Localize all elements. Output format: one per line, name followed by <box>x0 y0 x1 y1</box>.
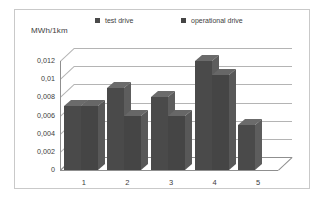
y-axis-tick-label: 0,008 <box>21 93 55 101</box>
gridline-depth-edge <box>60 66 75 80</box>
y-axis-tick-label: 0,004 <box>21 130 55 138</box>
bar-side-face <box>141 110 148 170</box>
x-axis-tick-label: 5 <box>243 178 273 187</box>
gridline <box>74 66 292 67</box>
gridline-depth-edge <box>60 84 75 98</box>
chart-frame: test drive operational drive MWh/1km 00,… <box>14 9 310 189</box>
bar-front-face <box>151 97 168 170</box>
bar-front-face <box>238 125 255 170</box>
y-axis-tick-label: 0,012 <box>21 57 55 65</box>
bar-front-face <box>107 88 124 170</box>
bar-front-face <box>212 75 229 170</box>
bar-front-face <box>81 106 98 170</box>
bar-operational-drive-1 <box>81 100 105 170</box>
y-axis-tick-label: 0 <box>21 166 55 174</box>
gridline-depth-edge <box>60 48 75 62</box>
bar-operational-drive-4 <box>212 69 236 170</box>
x-axis-tick-label: 4 <box>200 178 230 187</box>
y-axis-tick-label: 0,002 <box>21 148 55 156</box>
bar-front-face <box>168 116 185 170</box>
y-axis-tick-label: 0,01 <box>21 75 55 83</box>
x-axis-line <box>60 170 278 171</box>
x-axis-tick-label: 3 <box>156 178 186 187</box>
bar-side-face <box>229 69 236 170</box>
bar-side-face <box>255 119 262 170</box>
bar-operational-drive-3 <box>168 110 192 170</box>
x-axis-tick-label: 2 <box>112 178 142 187</box>
bar-operational-drive-2 <box>124 110 148 170</box>
y-axis-tick-label: 0,006 <box>21 112 55 120</box>
bar-front-face <box>124 116 141 170</box>
bar-side-face <box>185 110 192 170</box>
y-axis-line <box>60 61 61 170</box>
bar-test-drive-5 <box>238 119 262 170</box>
gridline <box>74 48 292 49</box>
plot-area: 00,0020,0040,0060,0080,010,01212345 <box>15 10 311 190</box>
bar-front-face <box>64 106 81 170</box>
bar-side-face <box>98 100 105 170</box>
x-axis-tick-label: 1 <box>69 178 99 187</box>
floor-depth-edge <box>278 157 293 171</box>
bar-front-face <box>195 61 212 170</box>
